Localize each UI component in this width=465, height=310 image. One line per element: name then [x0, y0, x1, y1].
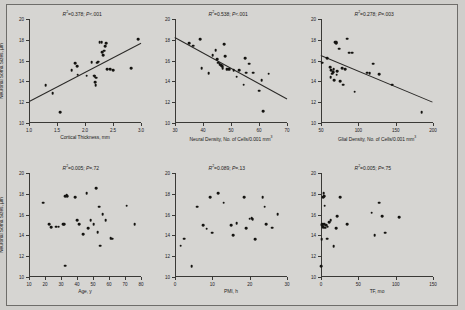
data-point [64, 264, 67, 267]
data-point [76, 219, 79, 222]
x-tick [175, 277, 176, 280]
y-tick [172, 81, 175, 82]
y-tick-label: 16 [300, 212, 316, 217]
x-tick-label: 50 [356, 282, 361, 287]
x-tick-label: 20 [43, 282, 48, 287]
data-point [100, 41, 103, 44]
data-point [92, 223, 95, 226]
data-point [320, 238, 323, 241]
data-point [320, 265, 323, 268]
y-tick [26, 173, 29, 174]
data-point [228, 68, 231, 71]
y-tick [172, 102, 175, 103]
data-point [97, 60, 100, 63]
x-tick [203, 123, 204, 126]
data-point [336, 215, 339, 218]
y-tick-label: 20 [8, 171, 24, 176]
stat-annotation: R2=0.005; P=.72 [63, 164, 99, 171]
data-point [199, 38, 202, 41]
x-tick-label: 10 [27, 282, 32, 287]
x-tick-label: 30 [59, 282, 64, 287]
x-tick-label: 50 [319, 128, 324, 133]
x-tick [109, 277, 110, 280]
data-point [133, 223, 136, 226]
y-tick [172, 19, 175, 20]
data-point [339, 80, 342, 83]
data-point [222, 201, 225, 204]
y-tick [26, 102, 29, 103]
y-tick [26, 81, 29, 82]
data-point [221, 67, 224, 70]
data-point [335, 42, 338, 45]
data-point [42, 201, 45, 204]
data-point [105, 42, 108, 45]
x-tick-label: 1.0 [26, 128, 32, 133]
x-tick [433, 277, 434, 280]
data-point [63, 223, 66, 226]
data-point [96, 231, 99, 234]
x-tick [250, 277, 251, 280]
x-tick [358, 277, 359, 280]
data-point [76, 73, 79, 76]
data-point [262, 110, 265, 113]
data-point [190, 265, 193, 268]
y-tick [172, 40, 175, 41]
x-tick [231, 123, 232, 126]
data-point [78, 223, 81, 226]
data-point [321, 61, 324, 64]
panel-pmi: 1012141618200102030PMI, hR2=0.089; P=.13 [175, 173, 287, 277]
data-point [252, 71, 255, 74]
y-tick [318, 235, 321, 236]
x-tick [259, 123, 260, 126]
stat-annotation: R2=0.538; P<.001 [209, 10, 248, 17]
data-point [200, 67, 203, 70]
y-tick [26, 61, 29, 62]
x-axis-title: TF, mo [321, 289, 433, 294]
x-tick [287, 277, 288, 280]
x-tick-label: 20 [247, 282, 252, 287]
y-tick-label: 20 [300, 17, 316, 22]
x-tick [287, 123, 288, 126]
y-tick [26, 19, 29, 20]
data-point [373, 234, 376, 237]
x-tick [141, 123, 142, 126]
y-tick [318, 256, 321, 257]
data-point [261, 196, 264, 199]
data-point [342, 83, 345, 86]
y-tick-label: 14 [154, 79, 170, 84]
x-tick-label: 80 [139, 282, 144, 287]
y-tick-label: 10 [8, 275, 24, 280]
y-tick [26, 235, 29, 236]
x-tick [396, 277, 397, 280]
data-point [207, 72, 210, 75]
stat-annotation: R2=0.378; P<.001 [63, 10, 102, 17]
y-tick [318, 81, 321, 82]
data-point [338, 47, 341, 50]
data-point [251, 218, 254, 221]
y-tick-label: 12 [154, 100, 170, 105]
y-tick-label: 10 [300, 121, 316, 126]
data-point [267, 72, 270, 75]
plot-axes [29, 173, 141, 277]
data-point [196, 205, 199, 208]
x-axis-title: Neural Density, No. of Cells/0.001 mm3 [175, 135, 287, 142]
data-point [372, 62, 375, 65]
figure-container: 1012141618201.01.52.02.53.0Cortical Thic… [0, 0, 465, 310]
data-point [89, 219, 92, 222]
x-tick-label: 30 [173, 128, 178, 133]
y-tick-label: 16 [300, 58, 316, 63]
panel-glial-density: 10121416182050100150200Glial Density, No… [321, 19, 433, 123]
data-point [95, 187, 98, 190]
y-tick-label: 14 [300, 233, 316, 238]
data-point [59, 111, 62, 114]
x-tick-label: 2.0 [82, 128, 88, 133]
x-tick-label: 0 [320, 282, 322, 287]
data-point [351, 51, 354, 54]
y-tick-label: 10 [154, 121, 170, 126]
data-point [232, 234, 235, 237]
data-point [332, 68, 335, 71]
panel-cortical-thickness: 1012141618201.01.52.02.53.0Cortical Thic… [29, 19, 141, 123]
data-point [85, 192, 88, 195]
data-point [248, 62, 251, 65]
y-tick-label: 16 [8, 58, 24, 63]
